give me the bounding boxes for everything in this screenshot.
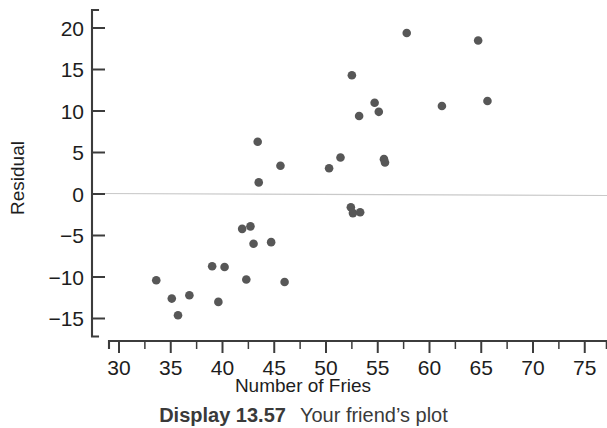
data-point <box>246 222 255 231</box>
data-point <box>185 291 194 300</box>
data-point <box>370 98 379 107</box>
zero-reference-line <box>98 194 607 196</box>
y-tick-label: −5 <box>60 224 84 247</box>
data-point <box>238 225 247 234</box>
y-tick-label: −10 <box>48 266 84 289</box>
y-tick-label: 0 <box>72 183 84 206</box>
data-point <box>249 240 258 249</box>
data-point <box>381 158 390 167</box>
x-axis: 30354045505560657075 <box>107 341 606 379</box>
y-tick-label: −15 <box>48 307 84 330</box>
data-point <box>438 102 447 111</box>
data-point <box>254 178 263 187</box>
data-point <box>208 262 217 271</box>
x-tick-label: 35 <box>159 356 182 379</box>
x-tick-label: 70 <box>521 356 544 379</box>
residual-scatter-figure: 20151050−5−10−15 30354045505560657075 Nu… <box>0 0 607 428</box>
y-axis: 20151050−5−10−15 <box>48 10 105 337</box>
caption-number: Display 13.57 <box>159 404 286 426</box>
x-tick-label: 75 <box>573 356 596 379</box>
y-tick-label: 15 <box>61 58 84 81</box>
y-tick-label: 10 <box>61 100 84 123</box>
x-tick-label: 40 <box>211 356 234 379</box>
data-point <box>242 275 251 284</box>
x-axis-label: Number of Fries <box>235 375 371 396</box>
data-point <box>355 112 364 121</box>
data-point <box>214 298 223 307</box>
x-tick-label: 65 <box>470 356 493 379</box>
data-point <box>474 36 483 45</box>
data-point <box>402 29 411 38</box>
data-point <box>280 278 289 287</box>
data-point <box>276 161 285 170</box>
data-point <box>253 137 262 146</box>
x-tick-label: 30 <box>107 356 130 379</box>
data-point <box>152 276 161 285</box>
data-point <box>348 71 357 80</box>
scatter-plot-svg: 20151050−5−10−15 30354045505560657075 Nu… <box>0 0 607 398</box>
data-point <box>325 164 334 173</box>
y-axis-label: Residual <box>7 141 28 215</box>
y-tick-label: 20 <box>61 17 84 40</box>
figure-caption: Display 13.57Your friend’s plot <box>0 398 607 428</box>
data-point <box>356 208 365 217</box>
data-point <box>174 311 183 320</box>
data-point <box>220 263 229 272</box>
y-tick-label: 5 <box>72 141 84 164</box>
data-point <box>483 97 492 106</box>
data-points-group <box>152 29 492 320</box>
data-point <box>336 153 345 162</box>
data-point <box>267 238 276 247</box>
data-point <box>167 294 176 303</box>
data-point <box>349 209 358 218</box>
data-point <box>374 108 383 117</box>
caption-title: Your friend’s plot <box>286 404 448 426</box>
x-tick-label: 60 <box>418 356 441 379</box>
